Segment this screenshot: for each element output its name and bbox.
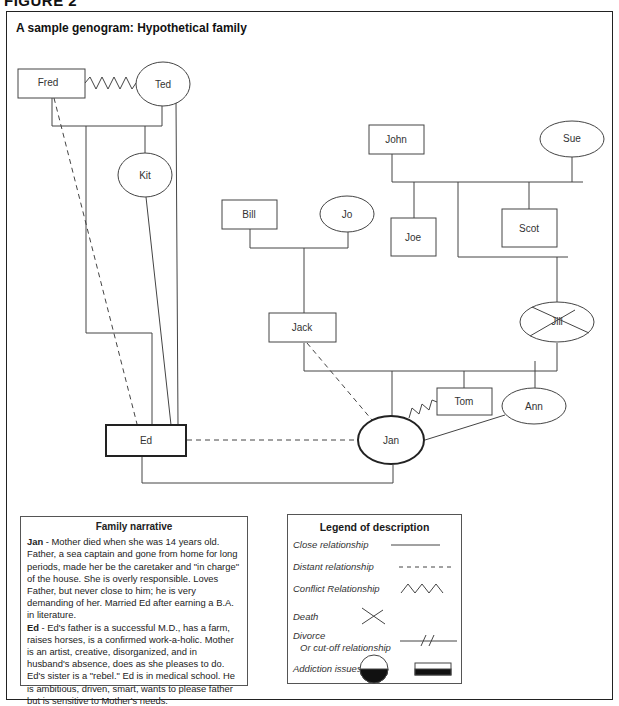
node-ted[interactable]: Ted bbox=[136, 62, 190, 106]
node-ann-label: Ann bbox=[525, 401, 543, 412]
node-john[interactable]: John bbox=[369, 125, 424, 154]
narrative-entry-ed: Ed - Ed's father is a successful M.D., h… bbox=[27, 622, 241, 706]
jack-jill-union-line bbox=[304, 343, 557, 371]
node-jack[interactable]: Jack bbox=[269, 313, 336, 342]
node-kit[interactable]: Kit bbox=[118, 153, 172, 197]
node-jan[interactable]: Jan bbox=[358, 416, 424, 464]
node-jill[interactable]: Jill bbox=[520, 302, 594, 342]
narrative-entry-jan: Jan - Mother died when she was 14 years … bbox=[27, 536, 241, 621]
node-ann[interactable]: Ann bbox=[502, 388, 566, 424]
legend-symbols bbox=[288, 515, 463, 685]
narrative-heading: Family narrative bbox=[27, 521, 241, 533]
ted-ed-close-line bbox=[176, 102, 178, 425]
node-fred[interactable]: Fred bbox=[18, 69, 85, 98]
node-tom[interactable]: Tom bbox=[437, 388, 492, 415]
node-tom-label: Tom bbox=[455, 396, 474, 407]
node-jo[interactable]: Jo bbox=[320, 196, 374, 232]
node-ted-label: Ted bbox=[155, 79, 171, 90]
node-bill-label: Bill bbox=[242, 209, 255, 220]
legend-conflict-zigzag-icon bbox=[401, 584, 443, 593]
narrative-entry-name: Jan bbox=[27, 536, 43, 547]
legend-addiction-square-icon bbox=[415, 663, 451, 675]
narrative-entry-text: - Mother died when she was 14 years old.… bbox=[27, 536, 239, 620]
ann-jan-close-line bbox=[425, 415, 505, 440]
jack-jan-distant-line bbox=[307, 343, 372, 420]
fred-ed-distant-line bbox=[54, 98, 137, 424]
node-fred-label: Fred bbox=[38, 77, 59, 88]
node-ed-label: Ed bbox=[140, 435, 152, 446]
legend-death-x-icon-2 bbox=[362, 610, 383, 624]
node-john-label: John bbox=[385, 134, 407, 145]
node-joe-label: Joe bbox=[405, 232, 422, 243]
node-bill[interactable]: Bill bbox=[222, 200, 277, 229]
node-sue-label: Sue bbox=[563, 133, 581, 144]
node-jo-label: Jo bbox=[342, 209, 353, 220]
legend-box: Legend of description Close relationship… bbox=[287, 514, 462, 684]
ed-jan-marriage-line bbox=[142, 456, 393, 483]
bill-jo-union-line bbox=[250, 229, 348, 248]
node-kit-label: Kit bbox=[139, 170, 151, 181]
narrative-entry-text: - Ed's father is a successful M.D., has … bbox=[27, 622, 235, 706]
node-ed[interactable]: Ed bbox=[106, 425, 186, 456]
kit-ed-close-line bbox=[146, 197, 171, 425]
node-scot[interactable]: Scot bbox=[502, 209, 557, 247]
tom-jan-conflict-line bbox=[409, 400, 437, 418]
fred-ted-conflict-line bbox=[85, 77, 136, 89]
node-joe[interactable]: Joe bbox=[391, 218, 436, 256]
john-sue-union-line bbox=[392, 152, 583, 182]
narrative-entry-name: Ed bbox=[27, 622, 39, 633]
family-narrative-box: Family narrative Jan - Mother died when … bbox=[20, 516, 248, 686]
node-scot-label: Scot bbox=[519, 223, 539, 234]
node-sue[interactable]: Sue bbox=[540, 121, 604, 157]
node-jan-label: Jan bbox=[383, 435, 399, 446]
legend-addiction-circle-icon bbox=[360, 655, 388, 683]
node-jack-label: Jack bbox=[292, 322, 314, 333]
